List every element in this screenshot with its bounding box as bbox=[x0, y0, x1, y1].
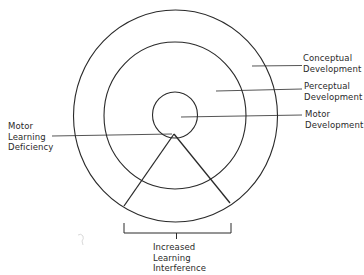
label-line: Conceptual bbox=[303, 53, 361, 64]
label-line: Perceptual bbox=[304, 81, 362, 92]
leader-motor bbox=[181, 115, 302, 117]
label-line: Learning bbox=[8, 132, 53, 143]
inner-circle-motor bbox=[153, 92, 198, 138]
label-line: Learning bbox=[153, 253, 206, 264]
interference-bracket bbox=[124, 223, 231, 233]
label-motor-learning-deficiency: Motor Learning Deficiency bbox=[8, 121, 53, 153]
label-conceptual-development: Conceptual Development bbox=[303, 53, 361, 74]
label-increased-learning-interference: Increased Learning Interference bbox=[153, 242, 206, 274]
label-line: Motor bbox=[305, 109, 363, 120]
leader-conceptual bbox=[252, 66, 302, 67]
label-line: Development bbox=[303, 64, 361, 75]
label-line: Deficiency bbox=[8, 142, 53, 153]
wedge-left-line bbox=[124, 134, 174, 206]
label-line: Development bbox=[304, 92, 362, 103]
label-perceptual-development: Perceptual Development bbox=[304, 81, 362, 102]
leader-perceptual bbox=[216, 89, 302, 91]
label-line: Development bbox=[305, 120, 363, 131]
label-line: Motor bbox=[8, 121, 53, 132]
label-line: Interference bbox=[153, 263, 206, 274]
middle-circle-perceptual bbox=[104, 42, 246, 189]
wedge-right-line bbox=[174, 134, 230, 203]
scan-artifact-mark bbox=[78, 234, 83, 245]
leader-deficiency bbox=[52, 134, 172, 136]
label-motor-development: Motor Development bbox=[305, 109, 363, 130]
diagram-canvas bbox=[0, 0, 364, 275]
label-line: Increased bbox=[153, 242, 206, 253]
